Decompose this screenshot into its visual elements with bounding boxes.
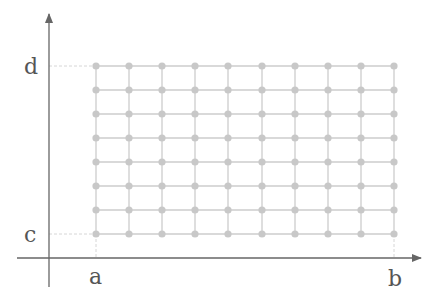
label-c: c	[24, 222, 36, 247]
grid-point	[258, 86, 265, 93]
grid-point	[390, 158, 397, 165]
grid-point	[258, 206, 265, 213]
grid-point	[324, 134, 331, 141]
grid-point	[390, 230, 397, 237]
grid-point	[258, 62, 265, 69]
grid-point	[92, 230, 99, 237]
grid-point	[191, 110, 198, 117]
grid-point	[125, 86, 132, 93]
grid-point	[125, 62, 132, 69]
grid-point	[191, 158, 198, 165]
grid-point	[224, 86, 231, 93]
grid-point	[158, 230, 165, 237]
grid-point	[390, 86, 397, 93]
grid-point	[191, 182, 198, 189]
grid-point	[291, 62, 298, 69]
grid-point	[324, 86, 331, 93]
grid-point	[224, 182, 231, 189]
grid-lines	[96, 66, 394, 234]
grid-point	[92, 134, 99, 141]
grid-point	[357, 110, 364, 117]
grid-point	[125, 158, 132, 165]
label-a: a	[89, 264, 102, 289]
grid-point	[224, 110, 231, 117]
grid-point	[125, 110, 132, 117]
grid-point	[357, 62, 364, 69]
grid-point	[324, 206, 331, 213]
grid-point	[324, 230, 331, 237]
grid-point	[224, 230, 231, 237]
grid-point	[158, 206, 165, 213]
grid-point	[191, 62, 198, 69]
grid-point	[158, 158, 165, 165]
grid-point	[390, 182, 397, 189]
label-d: d	[24, 54, 38, 79]
grid-point	[92, 62, 99, 69]
grid-point	[390, 206, 397, 213]
grid-point	[291, 230, 298, 237]
grid-point	[324, 158, 331, 165]
grid-diagram: d c a b	[0, 0, 444, 307]
grid-point	[324, 182, 331, 189]
grid-point	[291, 182, 298, 189]
grid-point	[125, 230, 132, 237]
grid-point	[357, 182, 364, 189]
grid-point	[125, 134, 132, 141]
grid-point	[158, 134, 165, 141]
grid-point	[357, 158, 364, 165]
grid-point	[191, 206, 198, 213]
grid-point	[291, 110, 298, 117]
grid-point	[191, 86, 198, 93]
grid-point	[92, 182, 99, 189]
grid-point	[291, 206, 298, 213]
grid-point	[92, 158, 99, 165]
grid-point	[357, 134, 364, 141]
grid-point	[324, 62, 331, 69]
grid-point	[357, 86, 364, 93]
label-b: b	[388, 266, 402, 291]
grid-point	[92, 206, 99, 213]
grid-point	[258, 158, 265, 165]
grid-point	[291, 86, 298, 93]
grid-point	[191, 134, 198, 141]
grid-point	[291, 134, 298, 141]
grid-point	[224, 158, 231, 165]
grid-point	[390, 110, 397, 117]
grid-point	[92, 86, 99, 93]
grid-point	[92, 110, 99, 117]
grid-point	[258, 182, 265, 189]
grid-point	[390, 134, 397, 141]
grid-point	[158, 86, 165, 93]
grid-point	[258, 230, 265, 237]
grid-point	[357, 230, 364, 237]
grid-point	[324, 110, 331, 117]
grid-point	[224, 206, 231, 213]
grid-point	[125, 206, 132, 213]
grid-point	[357, 206, 364, 213]
grid-point	[258, 110, 265, 117]
grid-point	[224, 62, 231, 69]
grid-point	[291, 158, 298, 165]
grid-points	[92, 62, 397, 237]
grid-point	[158, 62, 165, 69]
grid-point	[390, 62, 397, 69]
grid-point	[158, 110, 165, 117]
grid-point	[125, 182, 132, 189]
grid-point	[258, 134, 265, 141]
grid-point	[158, 182, 165, 189]
grid-point	[224, 134, 231, 141]
grid-point	[191, 230, 198, 237]
